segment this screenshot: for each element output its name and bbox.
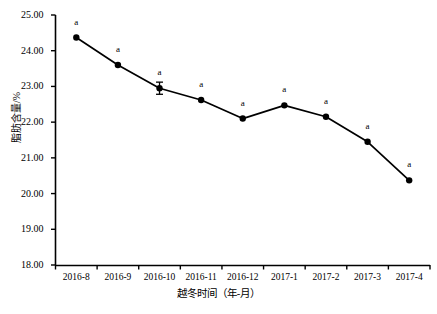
y-axis-tick-label: 24.00 [4,46,44,56]
y-axis-tick-label: 22.00 [4,117,44,127]
y-axis-tick-label: 18.00 [4,260,44,270]
data-point-marker [406,177,412,183]
significance-letter: a [361,122,375,131]
data-point-markers [73,34,412,183]
plot-area-svg [0,0,437,314]
significance-letter: a [402,160,416,169]
data-point-marker [281,102,287,108]
data-point-marker [364,139,370,145]
y-axis-tick-label: 25.00 [4,10,44,20]
data-point-marker [323,114,329,120]
data-series-line [76,38,409,181]
fat-content-line-chart: 25.0024.0023.0022.0021.0020.0019.0018.00… [0,0,437,314]
significance-letter: a [69,18,83,27]
y-axis-tick-label: 23.00 [4,81,44,91]
significance-letter: a [236,99,250,108]
y-axis-tick-label: 19.00 [4,224,44,234]
significance-letter: a [111,45,125,54]
y-axis-title: 脂肪含量/% [11,66,22,170]
data-point-marker [73,34,79,40]
x-axis-title: 越冬时间（年-月） [0,288,437,300]
significance-letter: a [153,68,167,77]
significance-letter: a [277,85,291,94]
significance-letter: a [319,97,333,106]
significance-letter: a [194,80,208,89]
data-point-marker [240,115,246,121]
data-point-marker [198,97,204,103]
data-point-marker [115,62,121,68]
y-axis-tick-label: 20.00 [4,189,44,199]
data-point-marker [156,85,162,91]
y-axis-tick-label: 21.00 [4,153,44,163]
x-axis-tick-label: 2017-4 [379,272,437,282]
